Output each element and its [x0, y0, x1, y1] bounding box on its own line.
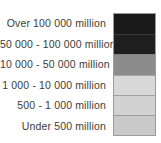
legend-label-3: 1 000 - 10 000 million — [0, 75, 110, 96]
legend-label-5: Under 500 million — [0, 116, 110, 137]
legend-label-4: 500 - 1 000 million — [0, 95, 110, 116]
legend-swatch-1 — [114, 34, 155, 54]
map-legend: Over 100 000 million 50 000 - 100 000 mi… — [0, 0, 161, 143]
legend-swatch-3 — [114, 75, 155, 95]
legend-label-column: Over 100 000 million 50 000 - 100 000 mi… — [0, 13, 110, 136]
legend-swatch-0 — [114, 14, 155, 34]
legend-label-0: Over 100 000 million — [0, 13, 110, 34]
legend-swatch-2 — [114, 54, 155, 74]
legend-label-2: 10 000 - 50 000 million — [0, 54, 110, 75]
legend-swatch-column — [113, 13, 156, 136]
legend-swatch-4 — [114, 95, 155, 115]
legend-label-1: 50 000 - 100 000 million — [0, 34, 110, 55]
legend-swatch-5 — [114, 115, 155, 135]
